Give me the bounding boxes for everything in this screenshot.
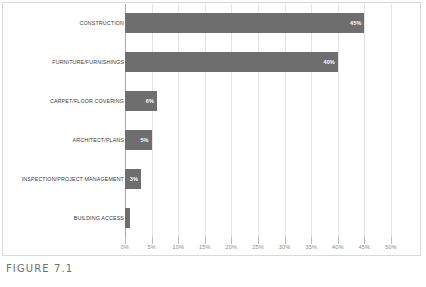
gridline-10%: [178, 4, 179, 237]
tick-label-10%: 10%: [172, 244, 184, 250]
bar-value-label: 5%: [140, 137, 148, 143]
bar-row: 5%: [125, 130, 391, 150]
bar-value-label: 45%: [350, 20, 361, 26]
gridline-30%: [285, 4, 286, 237]
tick-label-40%: 40%: [332, 244, 344, 250]
tick-mark-10%: [178, 237, 179, 244]
tick-label-5%: 5%: [147, 244, 155, 250]
bar-inspection-project-management[interactable]: 3%: [125, 169, 141, 189]
bar-row: 6%: [125, 91, 391, 111]
gridline-40%: [338, 4, 339, 237]
tick-mark-25%: [258, 237, 259, 244]
gridline-35%: [311, 4, 312, 237]
gridline-20%: [231, 4, 232, 237]
category-label-construction: CONSTRUCTION: [80, 20, 124, 26]
tick-mark-15%: [205, 237, 206, 244]
tick-mark-35%: [311, 237, 312, 244]
tick-mark-50%: [391, 237, 392, 244]
category-label-furniture-furnishings: FURNITURE/FURNISHINGS: [52, 59, 124, 65]
bar-furniture-furnishings[interactable]: 40%: [125, 52, 338, 72]
x-axis-tick-labels: 0%5%10%15%20%25%30%35%40%45%50%: [125, 244, 391, 256]
category-label-architect-plans: ARCHITECT/PLANS: [73, 137, 124, 143]
tick-label-15%: 15%: [199, 244, 211, 250]
bar-construction[interactable]: 45%: [125, 13, 364, 33]
figure-caption: FIGURE 7.1: [6, 263, 73, 274]
bar-carpet-floor-covering[interactable]: 6%: [125, 91, 157, 111]
category-label-inspection-project-management: INSPECTION/PROJECT MANAGEMENT: [22, 176, 124, 182]
category-label-building-access: BUILDING ACCESS: [74, 215, 124, 221]
tick-mark-45%: [364, 237, 365, 244]
bar-value-label: 3%: [130, 176, 138, 182]
bar-row: 45%: [125, 13, 391, 33]
tick-label-0%: 0%: [121, 244, 129, 250]
tick-label-20%: 20%: [226, 244, 238, 250]
tick-label-50%: 50%: [385, 244, 397, 250]
tick-label-25%: 25%: [252, 244, 264, 250]
plot-area: 45%40%6%5%3%: [125, 4, 391, 237]
bar-architect-plans[interactable]: 5%: [125, 130, 152, 150]
tick-mark-5%: [152, 237, 153, 244]
gridline-50%: [391, 4, 392, 237]
tick-mark-20%: [231, 237, 232, 244]
y-axis-line: [125, 4, 126, 237]
tick-mark-40%: [338, 237, 339, 244]
gridline-45%: [364, 4, 365, 237]
tick-mark-0%: [125, 237, 126, 244]
bar-value-label: 6%: [146, 98, 154, 104]
category-label-carpet-floor-covering: CARPET/FLOOR COVERING: [50, 98, 124, 104]
bar-row: 3%: [125, 169, 391, 189]
tick-label-45%: 45%: [359, 244, 371, 250]
gridline-5%: [152, 4, 153, 237]
tick-label-35%: 35%: [305, 244, 317, 250]
bar-row: [125, 208, 391, 228]
bar-building-access[interactable]: [125, 208, 130, 228]
gridline-25%: [258, 4, 259, 237]
bar-value-label: 40%: [323, 59, 334, 65]
bar-row: 40%: [125, 52, 391, 72]
gridline-15%: [205, 4, 206, 237]
tick-label-30%: 30%: [279, 244, 291, 250]
tick-mark-30%: [285, 237, 286, 244]
